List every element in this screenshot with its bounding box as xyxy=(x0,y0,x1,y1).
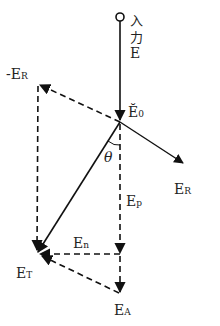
theta-label: θ xyxy=(104,149,113,165)
input-label-3: E xyxy=(130,45,140,61)
neg-er-label: -ER xyxy=(6,66,28,82)
input-label-2: 力 xyxy=(130,30,143,45)
input-terminal-icon xyxy=(116,13,124,21)
neg-er-vector xyxy=(40,85,120,122)
er-vector xyxy=(120,122,183,163)
ea-to-et-vector xyxy=(42,256,119,293)
et-label: ET xyxy=(16,265,32,281)
ea-label: EA xyxy=(114,302,131,318)
et-vector xyxy=(38,122,120,252)
vector-diagram: 入 力 E Ĕ0 -ER ER θ Ep En ET EA xyxy=(0,0,220,326)
ep-label: Ep xyxy=(126,193,142,209)
origin-label: Ĕ0 xyxy=(128,103,144,120)
en-label: En xyxy=(73,235,89,251)
input-label-1: 入 xyxy=(130,13,143,28)
neg-er-projection xyxy=(37,86,38,250)
theta-arc xyxy=(108,141,120,145)
er-label: ER xyxy=(174,181,191,197)
